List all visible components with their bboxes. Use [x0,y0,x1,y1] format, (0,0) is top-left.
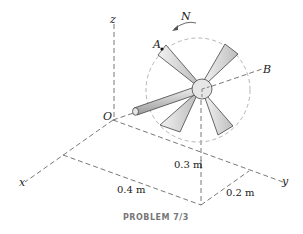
problem-caption: PROBLEM 7/3 [123,214,189,222]
axes [25,24,283,205]
blade-upper-left [158,45,198,85]
x-axis-label: x [19,177,25,188]
dimension-0-4m: 0.4 m [117,185,146,195]
y-axis [113,120,283,182]
point-B-label: B [263,64,271,75]
origin-label: O [103,111,112,122]
dimension-0-3m: 0.3 m [174,160,203,170]
blade-upper-right [203,44,238,84]
blade-lower-right [205,96,233,135]
diagram-canvas [0,0,303,234]
x-axis [25,120,113,182]
y-axis-label: y [282,176,288,187]
point-A-label: A [153,39,161,50]
dimension-0-2m: 0.2 m [226,188,255,198]
rotation-N-label: N [181,11,191,22]
z-axis-label: z [110,14,116,25]
